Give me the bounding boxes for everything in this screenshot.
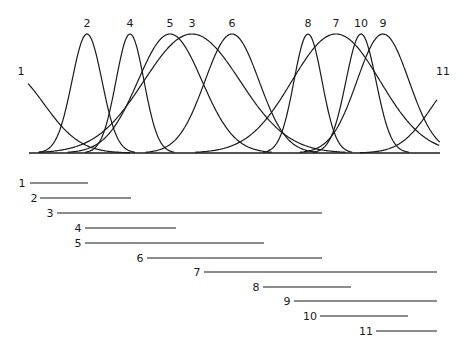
range-label-4: 4 [75, 222, 82, 235]
range-label-7: 7 [194, 266, 201, 279]
curve-label-4: 4 [127, 17, 134, 30]
curve-label-10: 10 [354, 17, 368, 30]
chart-figure: 1245368710911 1234567891011 [0, 0, 468, 350]
curve-label-1: 1 [18, 65, 25, 78]
range-label-11: 11 [359, 325, 373, 338]
chart-svg: 1245368710911 1234567891011 [0, 0, 468, 350]
range-label-9: 9 [284, 295, 291, 308]
ranges-group: 1234567891011 [19, 177, 438, 338]
range-label-10: 10 [303, 310, 317, 323]
curve-label-6: 6 [229, 17, 236, 30]
range-label-6: 6 [137, 252, 144, 265]
curve-label-9: 9 [380, 17, 387, 30]
curve-label-5: 5 [167, 17, 174, 30]
curve-label-2: 2 [84, 17, 91, 30]
curve-8 [263, 34, 352, 152]
curve-3 [38, 34, 345, 152]
curve-label-11: 11 [436, 65, 450, 78]
curve-11 [360, 100, 437, 153]
range-label-1: 1 [19, 177, 26, 190]
range-label-2: 2 [31, 192, 38, 205]
curve-label-3: 3 [189, 17, 196, 30]
curve-label-7: 7 [333, 17, 340, 30]
curve-1 [28, 84, 130, 153]
curves-group: 1245368710911 [18, 17, 451, 153]
range-label-3: 3 [47, 207, 54, 220]
curve-label-8: 8 [305, 17, 312, 30]
curve-5 [68, 34, 272, 152]
range-label-8: 8 [253, 281, 260, 294]
range-label-5: 5 [75, 237, 82, 250]
curve-2 [39, 34, 135, 152]
